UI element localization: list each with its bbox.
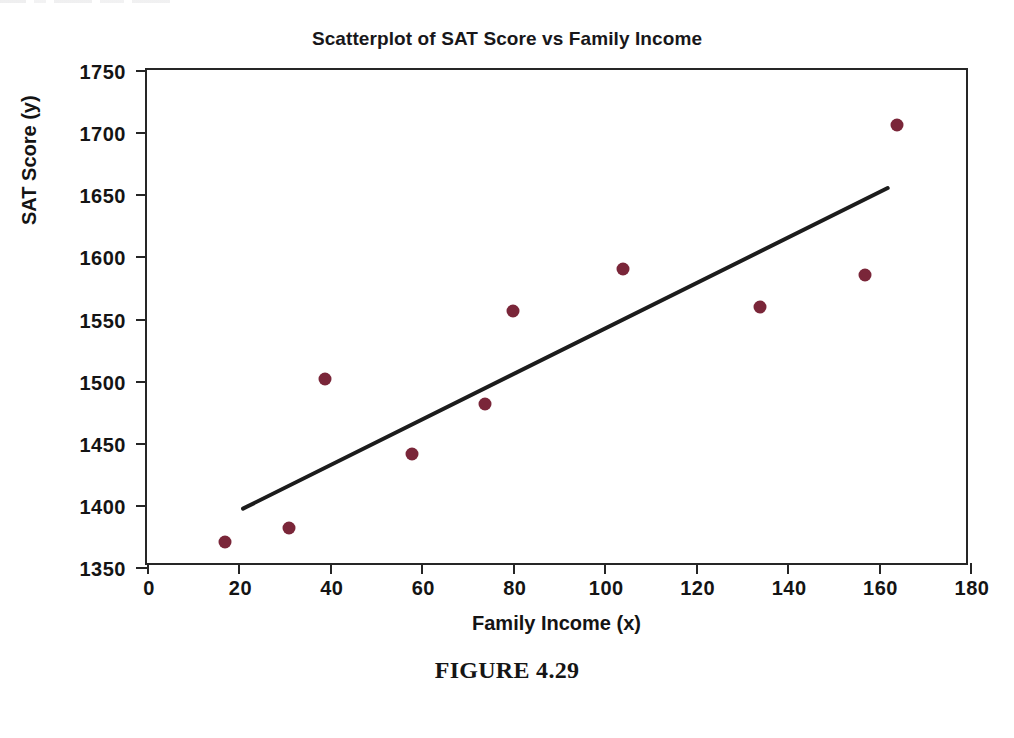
y-axis-tick-label: 1650 [80, 185, 127, 208]
x-axis-tick: 40 [330, 563, 332, 574]
y-axis-tick: 1550 [136, 319, 147, 321]
plot-frame: 1350140014501500155016001650170017500204… [145, 68, 968, 565]
scatter-point [218, 536, 231, 549]
x-axis-tick: 140 [787, 563, 789, 574]
scatter-point [282, 522, 295, 535]
x-axis-tick-label: 20 [229, 577, 252, 600]
plot-area [147, 70, 966, 563]
scatter-point [406, 447, 419, 460]
x-axis-tick: 80 [513, 563, 515, 574]
x-axis-tick-label: 0 [143, 577, 155, 600]
x-axis-tick: 160 [879, 563, 881, 574]
x-axis-tick: 120 [696, 563, 698, 574]
x-axis-tick: 60 [421, 563, 423, 574]
scatter-point [858, 269, 871, 282]
regression-trendline [147, 70, 970, 567]
scatter-point [616, 262, 629, 275]
y-axis-tick-label: 1700 [80, 123, 127, 146]
scatter-point [753, 301, 766, 314]
x-axis-tick-label: 80 [503, 577, 526, 600]
x-axis-tick-label: 100 [589, 577, 624, 600]
x-axis-tick-label: 140 [772, 577, 807, 600]
scatter-point [506, 305, 519, 318]
x-axis-tick: 0 [147, 563, 149, 574]
chart-title: Scatterplot of SAT Score vs Family Incom… [0, 28, 1014, 50]
x-axis-tick-label: 120 [680, 577, 715, 600]
scatter-point [319, 373, 332, 386]
x-axis-tick-label: 40 [320, 577, 343, 600]
figure-caption: FIGURE 4.29 [0, 657, 1014, 684]
y-axis-tick-label: 1600 [80, 247, 127, 270]
y-axis-tick-label: 1750 [80, 61, 127, 84]
y-axis-tick: 1600 [136, 256, 147, 258]
y-axis-tick: 1650 [136, 194, 147, 196]
y-axis-tick-label: 1350 [80, 558, 127, 581]
y-axis-tick: 1500 [136, 381, 147, 383]
y-axis-tick-label: 1500 [80, 371, 127, 394]
y-axis-tick: 1700 [136, 132, 147, 134]
x-axis-tick-label: 160 [863, 577, 898, 600]
y-axis-tick: 1450 [136, 443, 147, 445]
y-axis-tick: 1400 [136, 505, 147, 507]
y-axis-title: SAT Score (y) [18, 95, 41, 225]
y-axis-tick-label: 1550 [80, 309, 127, 332]
x-axis-title: Family Income (x) [145, 612, 968, 635]
scatter-point [479, 398, 492, 411]
y-axis-tick: 1750 [136, 70, 147, 72]
figure-container: Scatterplot of SAT Score vs Family Incom… [0, 0, 1014, 738]
scatter-point [890, 118, 903, 131]
x-axis-tick: 180 [970, 563, 972, 574]
y-axis-tick-label: 1450 [80, 433, 127, 456]
x-axis-tick: 100 [604, 563, 606, 574]
y-axis-tick-label: 1400 [80, 495, 127, 518]
y-axis-tick: 1350 [136, 567, 147, 569]
x-axis-tick-label: 180 [955, 577, 990, 600]
x-axis-tick-label: 60 [412, 577, 435, 600]
x-axis-tick: 20 [238, 563, 240, 574]
